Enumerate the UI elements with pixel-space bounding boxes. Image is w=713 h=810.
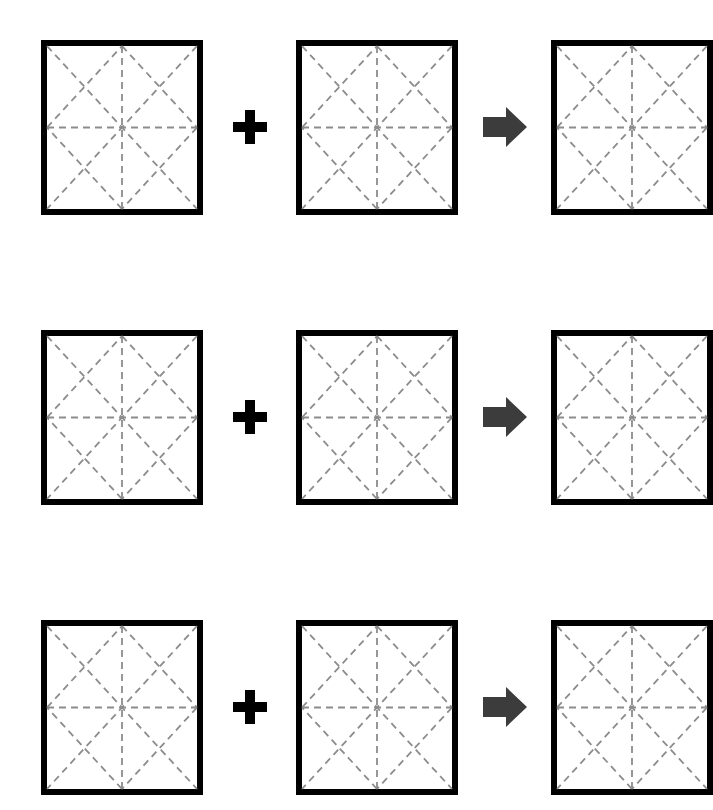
- right-arrow-icon: [482, 395, 528, 439]
- row-1-lead-spacer: [0, 40, 41, 215]
- arrow-operator-row-3: [458, 620, 551, 795]
- plus-icon-vertical-bar: [245, 690, 255, 724]
- plus-operator-row-1: [203, 40, 296, 215]
- plus-icon-vertical-bar: [245, 400, 255, 434]
- crease-pattern-svg: [41, 330, 203, 505]
- plus-icon-vertical-bar: [245, 110, 255, 144]
- plus-icon: [233, 400, 267, 434]
- arrow-operator-row-1: [458, 40, 551, 215]
- crease-pattern-svg: [551, 330, 713, 505]
- crease-pattern-svg: [296, 620, 458, 795]
- crease-pattern-b3[interactable]: [296, 620, 458, 795]
- crease-pattern-svg: [551, 620, 713, 795]
- crease-pattern-svg: [41, 620, 203, 795]
- crease-pattern-a1[interactable]: [41, 40, 203, 215]
- crease-pattern-b1[interactable]: [296, 40, 458, 215]
- plus-icon: [233, 110, 267, 144]
- crease-pattern-svg: [296, 330, 458, 505]
- right-arrow-icon: [482, 105, 528, 149]
- crease-pattern-c2[interactable]: [551, 330, 713, 505]
- crease-pattern-svg: [41, 40, 203, 215]
- crease-pattern-a3[interactable]: [41, 620, 203, 795]
- equation-row-1: [0, 32, 709, 222]
- plus-operator-row-2: [203, 330, 296, 505]
- plus-operator-row-3: [203, 620, 296, 795]
- right-arrow-icon: [482, 685, 528, 729]
- equation-row-3: [0, 612, 709, 802]
- plus-icon: [233, 690, 267, 724]
- row-2-lead-spacer: [0, 330, 41, 505]
- row-3-lead-spacer: [0, 620, 41, 795]
- crease-pattern-c3[interactable]: [551, 620, 713, 795]
- arrow-operator-row-2: [458, 330, 551, 505]
- crease-pattern-svg: [551, 40, 713, 215]
- crease-pattern-b2[interactable]: [296, 330, 458, 505]
- crease-pattern-c1[interactable]: [551, 40, 713, 215]
- crease-pattern-a2[interactable]: [41, 330, 203, 505]
- equation-row-2: [0, 322, 709, 512]
- crease-pattern-svg: [296, 40, 458, 215]
